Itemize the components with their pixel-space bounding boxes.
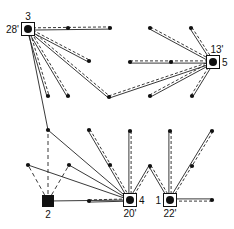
hub-label: 3	[25, 11, 31, 22]
terminal-node-dot	[210, 198, 214, 202]
depot-square-icon	[42, 195, 54, 207]
route-edge-solid	[151, 63, 214, 97]
terminal-node-dot	[87, 199, 91, 203]
hub-dot-icon	[209, 58, 217, 66]
terminal-node-dot	[46, 128, 50, 132]
dual-route-edges	[27, 27, 214, 202]
route-edge-solid	[109, 63, 213, 98]
route-edge-dashed	[29, 28, 90, 60]
terminal-node-dot	[66, 26, 70, 30]
hub-time-label: 13'	[210, 44, 223, 55]
hub-label: 1	[155, 195, 161, 206]
route-edge-dashed	[29, 28, 110, 96]
terminal-node-dot	[168, 129, 172, 133]
terminal-node-dot	[148, 94, 152, 98]
hub-dot-icon	[126, 196, 134, 204]
terminal-node-dot	[67, 163, 71, 167]
terminal-node-dot	[108, 26, 112, 30]
route-edge-solid	[27, 30, 67, 97]
route-edge-dashed	[149, 61, 212, 95]
hub-label: 4	[139, 195, 145, 206]
hub-dot-icon	[24, 25, 32, 33]
terminal-node-dot	[190, 94, 194, 98]
dashed-edges	[28, 130, 69, 201]
terminal-node-dot	[148, 26, 152, 30]
terminal-node-dot	[210, 129, 214, 133]
terminal-node-dot	[169, 60, 173, 64]
solid-edge	[48, 130, 130, 200]
hub-label: 5	[222, 57, 228, 68]
hub-time-label: 28'	[6, 24, 19, 35]
terminal-node-dot	[87, 128, 91, 132]
terminal-node-dot	[46, 94, 50, 98]
terminal-node-dot	[108, 163, 112, 167]
terminal-node-dot	[66, 94, 70, 98]
route-edge-solid	[149, 29, 212, 63]
route-edge-solid	[169, 130, 211, 199]
hub-time-label: 22'	[163, 208, 176, 219]
terminal-node-dot	[148, 164, 152, 168]
hub-1: 122'	[155, 194, 176, 220]
hub-label: 2	[45, 209, 51, 220]
network-diagram: 328'513'420'122'2	[0, 0, 234, 229]
hub-5: 513'	[207, 44, 229, 69]
route-edge-dashed	[151, 27, 214, 61]
terminal-node-dot	[128, 129, 132, 133]
terminal-node-dot	[190, 164, 194, 168]
terminal-node-dot	[189, 26, 193, 30]
hub-3: 328'	[6, 11, 35, 36]
terminal-node-dot	[128, 60, 132, 64]
terminal-node-dot	[107, 95, 111, 99]
hub-2: 2	[42, 195, 54, 220]
hub-4: 420'	[123, 194, 145, 220]
terminal-node-dot	[87, 59, 91, 63]
hub-time-label: 20'	[123, 208, 136, 219]
hub-dot-icon	[166, 196, 174, 204]
terminal-node-dot	[26, 163, 30, 167]
